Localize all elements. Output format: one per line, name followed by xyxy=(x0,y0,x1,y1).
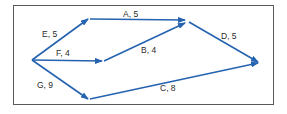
edge-label-g: G, 9 xyxy=(37,81,53,90)
edge-label-c: C, 8 xyxy=(160,84,176,93)
edge-label-d: D, 5 xyxy=(221,32,237,41)
edge-label-b: B, 4 xyxy=(141,46,156,55)
edge-label-f: F, 4 xyxy=(56,49,70,58)
edge-d-arrow xyxy=(189,22,258,62)
edge-b-arrow xyxy=(104,23,185,61)
edge-label-e: E, 5 xyxy=(42,30,57,39)
edge-f-arrow xyxy=(32,60,102,61)
activity-network-diagram xyxy=(0,0,287,114)
edge-a-arrow xyxy=(90,19,185,20)
edge-label-a: A, 5 xyxy=(123,10,138,19)
edge-c-arrow xyxy=(90,63,258,99)
